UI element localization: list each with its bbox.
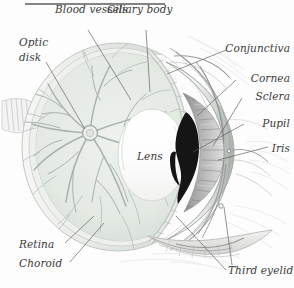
label-third-eyelid: Third eyelid xyxy=(228,264,293,276)
label-cornea: Cornea xyxy=(251,72,290,84)
optic-disk xyxy=(83,126,98,141)
label-conjunctiva: Conjunctiva xyxy=(225,42,290,54)
eye-anatomy-figure: Blood vessels Ciliary body Optic disk Co… xyxy=(0,0,294,288)
label-ciliary-body: Ciliary body xyxy=(107,3,173,15)
label-lens: Lens xyxy=(137,150,163,162)
label-sclera: Sclera xyxy=(255,90,290,102)
label-optic-disk-line1: Optic xyxy=(19,36,48,48)
label-optic-disk-line2: disk xyxy=(19,51,41,63)
label-retina: Retina xyxy=(19,238,54,250)
label-iris: Iris xyxy=(272,142,290,154)
label-choroid: Choroid xyxy=(19,257,62,269)
label-pupil: Pupil xyxy=(262,117,290,129)
